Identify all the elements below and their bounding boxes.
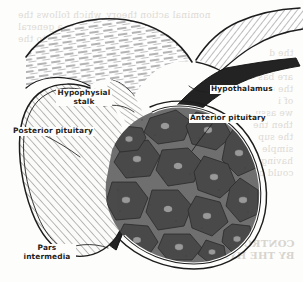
label-hypophysial-stalk-line2: stalk (57, 98, 111, 107)
label-posterior-pituitary: Posterior pituitary (12, 127, 94, 136)
label-posterior-pituitary-line1: Posterior pituitary (13, 127, 93, 136)
anterior-pituitary-region (106, 101, 267, 269)
label-pars-intermedia: Pars intermedia (18, 244, 76, 261)
label-hypothalamus-line1: Hypothalamus (211, 85, 273, 94)
label-hypothalamus: Hypothalamus (210, 85, 274, 94)
anatomy-drawing (0, 0, 303, 282)
label-hypophysial-stalk: Hypophysial stalk (56, 89, 112, 106)
label-anterior-pituitary-line1: Anterior pituitary (190, 114, 266, 123)
label-pars-intermedia-line2: intermedia (19, 253, 75, 262)
label-anterior-pituitary: Anterior pituitary (189, 114, 267, 123)
pituitary-gland-figure: nominal action theory, which follows the… (0, 0, 303, 282)
